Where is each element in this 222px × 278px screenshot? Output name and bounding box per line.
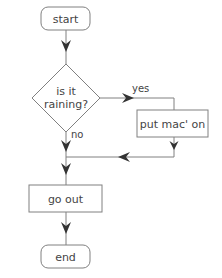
end-node: end [41,245,90,268]
start-label: start [53,13,79,26]
end-label: end [55,251,76,264]
go-out-node: go out [29,185,102,212]
put-mac-on-node: put mac' on [137,110,208,137]
no-label: no [71,129,83,140]
decision-label-line1: is it [56,85,76,98]
yes-label: yes [132,83,149,94]
edge-put-mac-on-to-merge [66,137,179,162]
edge-go-out-to-end [61,212,71,245]
flowchart-canvas: start is it raining? yes put mac' on no [0,0,222,278]
put-mac-on-label: put mac' on [140,118,206,131]
decision-node: is it raining? [32,64,100,132]
edge-start-to-decision [61,30,71,64]
edge-yes: yes [100,83,174,110]
start-node: start [41,7,90,30]
go-out-label: go out [48,193,84,206]
decision-label-line2: raining? [44,98,88,111]
